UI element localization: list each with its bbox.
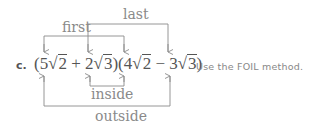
- radical-symbol: √: [178, 54, 187, 73]
- expr-mid: )(4: [112, 54, 132, 73]
- foil-method-note: Use the FOIL method.: [196, 61, 303, 72]
- expr-plus: + 2: [67, 54, 94, 73]
- expr-minus: − 3: [151, 54, 178, 73]
- label-first: first: [62, 19, 91, 35]
- label-last: last: [123, 6, 149, 22]
- last-bracket: [88, 24, 168, 52]
- radical-symbol: √: [48, 54, 57, 73]
- radical-symbol: √: [94, 54, 103, 73]
- expr-open1: (5: [34, 54, 48, 73]
- inside-bracket: [90, 76, 124, 86]
- foil-expression: (5√2 + 2√3)(4√2 − 3√3): [34, 54, 202, 74]
- part-label: c.: [16, 59, 27, 72]
- radicand-1: 2: [58, 54, 68, 72]
- radicand-3: 2: [142, 54, 152, 72]
- label-inside: inside: [91, 86, 133, 102]
- label-outside: outside: [95, 108, 147, 124]
- radical-symbol: √: [132, 54, 141, 73]
- first-bracket: [44, 36, 124, 52]
